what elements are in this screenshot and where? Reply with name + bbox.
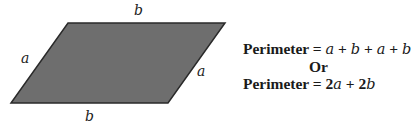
operator: + bbox=[338, 40, 347, 57]
perimeter-formula: Perimeter = a + b + a + b Or Perimeter =… bbox=[243, 40, 413, 93]
formula-prefix: Perimeter = bbox=[243, 40, 326, 57]
term: b bbox=[366, 76, 375, 92]
term: a bbox=[377, 41, 386, 57]
term: b bbox=[402, 41, 411, 57]
label-bottom-side: b bbox=[85, 109, 94, 122]
label-right-side: a bbox=[197, 64, 205, 78]
formula-prefix: Perimeter = bbox=[243, 75, 326, 92]
formula-line-2: Perimeter = 2a + 2b bbox=[243, 75, 413, 93]
operator: + bbox=[364, 40, 373, 57]
label-top-side: b bbox=[134, 3, 143, 17]
operator: + bbox=[346, 75, 355, 92]
label-left-side: a bbox=[21, 51, 29, 65]
term: a bbox=[333, 76, 342, 92]
term: b bbox=[351, 41, 360, 57]
term: a bbox=[326, 41, 335, 57]
operator: + bbox=[389, 40, 398, 57]
formula-line-1: Perimeter = a + b + a + b bbox=[243, 40, 413, 58]
formula-separator: Or bbox=[243, 58, 413, 75]
